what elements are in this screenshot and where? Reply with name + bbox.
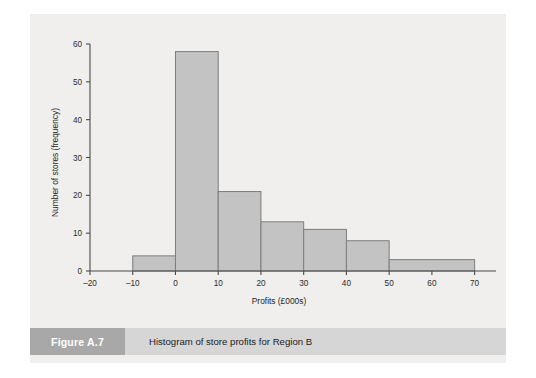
y-axis-title: Number of stores (frequency) (50, 108, 60, 217)
y-axis-tick-label: 10 (73, 229, 83, 238)
x-axis-tick-label: 70 (470, 279, 480, 288)
figure-caption-strip: Figure A.7 Histogram of store profits fo… (30, 328, 506, 355)
histogram-bar (218, 192, 261, 271)
x-axis-tick-label: –20 (83, 279, 97, 288)
x-axis-tick-label: 0 (173, 279, 178, 288)
histogram-bar (389, 260, 474, 271)
y-axis-tick-label: 40 (73, 116, 83, 125)
histogram-bar (133, 256, 176, 271)
y-axis-tick-label: 60 (73, 40, 83, 49)
figure-card: 0102030405060–20–10010203040506070Profit… (30, 14, 506, 363)
figure-caption: Histogram of store profits for Region B (125, 328, 506, 355)
y-axis-tick-label: 20 (73, 191, 83, 200)
histogram-bar (261, 222, 304, 271)
y-axis-tick-label: 50 (73, 78, 83, 87)
histogram-bar (175, 52, 218, 271)
chart-canvas: 0102030405060–20–10010203040506070Profit… (30, 14, 506, 319)
x-axis-tick-label: 30 (299, 279, 309, 288)
x-axis-title: Profits (£000s) (252, 296, 307, 306)
x-axis-tick-label: 60 (427, 279, 437, 288)
histogram-chart: 0102030405060–20–10010203040506070Profit… (30, 14, 506, 319)
x-axis-tick-label: 20 (256, 279, 266, 288)
figure-label-box: Figure A.7 (30, 328, 125, 355)
histogram-bar (346, 241, 389, 271)
y-axis-tick-label: 30 (73, 154, 83, 163)
x-axis-tick-label: 10 (214, 279, 224, 288)
histogram-bar (304, 229, 347, 271)
x-axis-tick-label: 50 (385, 279, 395, 288)
x-axis-tick-label: 40 (342, 279, 352, 288)
figure-label: Figure A.7 (51, 336, 104, 348)
y-axis-tick-label: 0 (77, 267, 82, 276)
x-axis-tick-label: –10 (126, 279, 140, 288)
